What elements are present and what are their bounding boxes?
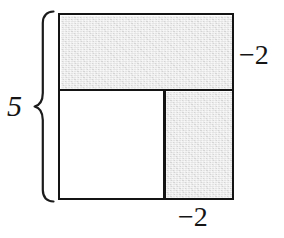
divider-vertical-line [163, 89, 166, 201]
region-top-strip [61, 16, 232, 90]
region-right-column [166, 92, 232, 198]
label-left-dimension: 5 [7, 91, 22, 121]
left-brace-icon [33, 9, 55, 204]
label-right-dimension: −2 [239, 41, 269, 69]
divider-horizontal-line [58, 89, 234, 92]
region-inner-square [61, 92, 164, 198]
label-bottom-dimension: −2 [178, 203, 208, 231]
area-model-figure: 5 −2 −2 [0, 0, 284, 238]
brace-svg [33, 9, 55, 204]
